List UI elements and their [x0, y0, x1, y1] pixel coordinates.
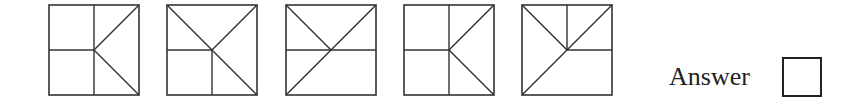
figure-1: [48, 4, 140, 96]
figure-2: [166, 4, 258, 96]
answer-label: Answer: [669, 62, 750, 92]
figure-4: [403, 4, 495, 96]
figure-3: [285, 4, 377, 96]
figure-5: [521, 4, 613, 96]
answer-box[interactable]: [782, 57, 822, 97]
